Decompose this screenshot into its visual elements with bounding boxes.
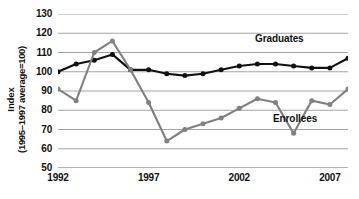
y-axis-title-main: Index [6,87,17,111]
data-point [74,98,79,103]
data-point [291,131,296,136]
series-label-enrollees: Enrollees [273,113,317,124]
data-point [309,65,314,70]
data-point [219,67,224,72]
y-tick-label: 100 [24,66,52,77]
data-point [255,96,260,101]
data-point [110,52,115,57]
data-point [146,100,151,105]
series-graduates [58,52,348,78]
chart-plot-svg [58,14,348,168]
data-point [255,62,260,67]
data-point [182,127,187,132]
data-point [164,71,169,76]
chart-container: Index (1995–1997 average=100) 1301201101… [0,0,359,199]
series-label-graduates: Graduates [255,33,304,44]
y-tick-label: 60 [24,143,52,154]
data-point [219,115,224,120]
data-point [164,139,169,144]
x-tick-label: 2002 [217,172,261,183]
data-point [110,38,115,43]
y-axis-title: Index (1995–1997 average=100) [0,0,34,199]
y-tick-label: 130 [24,8,52,19]
data-point [128,67,133,72]
data-point [237,63,242,68]
data-point [74,62,79,67]
x-tick-label: 2007 [308,172,352,183]
data-point [182,73,187,78]
data-point [309,98,314,103]
x-tick-label: 1992 [36,172,80,183]
y-tick-label: 80 [24,104,52,115]
data-point [327,102,332,107]
y-tick-label: 90 [24,85,52,96]
data-point [273,62,278,67]
y-tick-label: 70 [24,124,52,135]
plot-area [58,14,348,168]
data-point [146,67,151,72]
y-axis-title-sub: (1995–1997 average=100) [17,46,28,153]
y-tick-label: 50 [24,162,52,173]
data-point [327,65,332,70]
data-point [291,63,296,68]
y-tick-label: 120 [24,27,52,38]
y-tick-label: 110 [24,47,52,58]
data-point [201,121,206,126]
x-tick-label: 1997 [127,172,171,183]
data-point [92,50,97,55]
data-point [201,71,206,76]
data-point [273,100,278,105]
gridlines [58,14,348,168]
data-point [237,106,242,111]
